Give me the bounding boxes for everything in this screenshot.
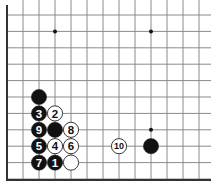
black-stone: 9 xyxy=(31,122,46,137)
black-stone xyxy=(31,89,46,104)
black-stone: 5 xyxy=(31,139,46,154)
black-stone: 1 xyxy=(47,155,62,170)
move-number: 1 xyxy=(52,157,59,169)
black-stone: 7 xyxy=(31,155,46,170)
white-stone: 6 xyxy=(63,139,78,154)
white-stone: 8 xyxy=(63,122,78,137)
white-stone: 2 xyxy=(47,106,62,121)
move-number: 2 xyxy=(52,108,58,120)
move-number: 6 xyxy=(68,140,74,152)
move-number: 10 xyxy=(114,141,124,151)
star-point xyxy=(53,29,57,33)
white-stone xyxy=(63,155,78,170)
white-stone: 4 xyxy=(47,139,62,154)
star-point xyxy=(149,29,153,33)
white-stone: 10 xyxy=(111,139,126,154)
move-number: 4 xyxy=(52,140,59,152)
go-board: 39572418610 xyxy=(0,0,211,189)
move-number: 7 xyxy=(36,157,42,169)
move-number: 8 xyxy=(68,124,75,136)
move-number: 9 xyxy=(36,124,42,136)
black-stone xyxy=(47,122,62,137)
black-stone xyxy=(143,139,158,154)
move-number: 5 xyxy=(36,140,43,152)
move-number: 3 xyxy=(36,108,42,120)
black-stone: 3 xyxy=(31,106,46,121)
star-point xyxy=(149,128,153,132)
